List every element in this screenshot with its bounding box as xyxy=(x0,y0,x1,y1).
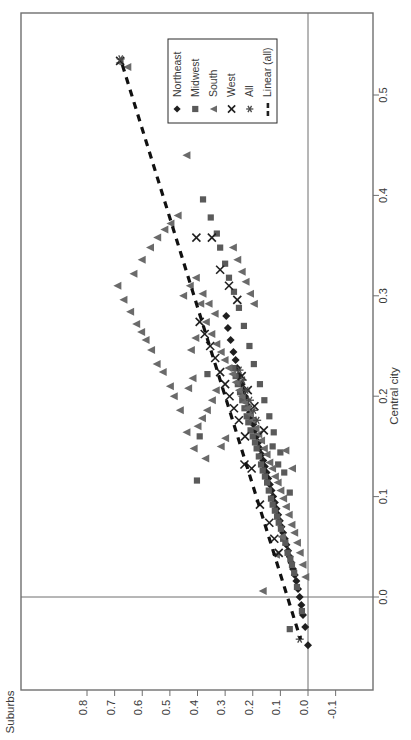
legend-label: Midwest xyxy=(189,58,201,97)
suburbs-tick-label: 0.0 xyxy=(298,700,310,715)
suburbs-tick-label: 0.4 xyxy=(188,700,200,715)
suburbs-tick-label: 0.7 xyxy=(105,700,117,715)
legend-label: Linear (all) xyxy=(261,47,273,97)
suburbs-tick-label: 0.3 xyxy=(215,700,227,715)
suburbs-tick-label: 0.5 xyxy=(160,700,172,715)
legend-label: Northeast xyxy=(171,51,183,97)
legend: NortheastMidwestSouthWestAllLinear (all) xyxy=(168,39,277,123)
central-city-tick-label: 0.5 xyxy=(377,87,389,102)
legend-label: South xyxy=(207,69,219,97)
central-city-tick-label: 0.3 xyxy=(377,288,389,303)
legend-label: All xyxy=(243,85,255,97)
central-city-tick-label: 0.0 xyxy=(377,589,389,604)
central-city-axis-title: Central city xyxy=(388,367,400,425)
suburbs-tick-label: 0.8 xyxy=(77,700,89,715)
central-city-tick-label: 0.4 xyxy=(377,188,389,203)
suburbs-tick-label: 0.6 xyxy=(132,700,144,715)
suburbs-tick-label: 0.1 xyxy=(270,700,282,715)
chart-root: 0.80.70.60.50.40.30.20.10.0-0.1 0.00.10.… xyxy=(0,0,411,740)
suburbs-tick-label: -0.1 xyxy=(326,700,338,719)
legend-label: West xyxy=(225,73,237,97)
suburbs-tick-label: 0.2 xyxy=(243,700,255,715)
scatter-plot: 0.80.70.60.50.40.30.20.10.0-0.1 0.00.10.… xyxy=(0,0,411,740)
central-city-tick-label: 0.1 xyxy=(377,489,389,504)
suburbs-axis-title: Suburbs xyxy=(4,690,16,733)
